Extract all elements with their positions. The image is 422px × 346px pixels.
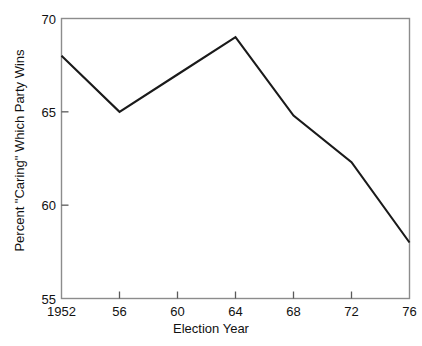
chart-plot-area: [0, 0, 422, 346]
y-axis-title-text: Percent "Caring" Which Party Wins: [13, 49, 26, 251]
x-axis-title-text: Election Year: [173, 321, 249, 336]
x-tick-label: 1952: [47, 305, 76, 318]
y-axis-ticks: [62, 112, 69, 205]
x-tick-label: 76: [402, 305, 416, 318]
chart-container: 70656055 1952566064687276 Percent "Carin…: [0, 0, 422, 346]
y-tick-label: 60: [28, 199, 56, 212]
y-tick-label: 65: [28, 105, 56, 118]
x-tick-label: 68: [286, 305, 300, 318]
y-axis-title: Percent "Caring" Which Party Wins: [8, 0, 30, 300]
plot-frame: [62, 19, 410, 299]
x-tick-label: 64: [228, 305, 242, 318]
x-tick-label: 56: [112, 305, 126, 318]
x-axis-title: Election Year: [0, 322, 422, 335]
x-axis-ticks: [120, 292, 352, 299]
x-tick-label: 60: [170, 305, 184, 318]
y-tick-label: 70: [28, 12, 56, 25]
x-tick-label: 72: [344, 305, 358, 318]
data-series-line: [62, 37, 410, 242]
